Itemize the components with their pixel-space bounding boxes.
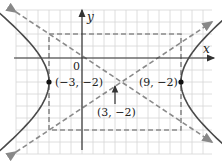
vertex-left-point bbox=[46, 79, 51, 84]
vertex-left-label: (−3, −2) bbox=[55, 76, 103, 89]
asymptote-negative-slope bbox=[16, 12, 212, 142]
x-axis-label: x bbox=[203, 42, 210, 56]
origin-label: 0 bbox=[73, 60, 80, 73]
vertex-right-label: (9, −2) bbox=[139, 76, 178, 89]
vertex-right-point bbox=[178, 79, 183, 84]
graph-canvas: y x 0 (−3, −2) (9, −2) (3, −2) bbox=[0, 0, 222, 167]
y-axis-label: y bbox=[86, 10, 94, 24]
center-label: (3, −2) bbox=[97, 106, 136, 119]
asymptote-positive-slope bbox=[16, 22, 212, 152]
hyperbola-figure: y x 0 (−3, −2) (9, −2) (3, −2) bbox=[0, 0, 222, 167]
